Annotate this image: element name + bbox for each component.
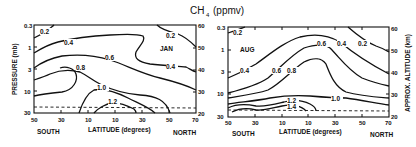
- month-label-aug: AUG: [240, 46, 254, 53]
- y-tick: 1: [221, 47, 225, 53]
- y-axis-pressure-aug: 0.3 1 3 10 30: [217, 25, 231, 120]
- title-main: CH: [190, 5, 204, 16]
- x-axis-label: LATITUDE (degrees): [88, 126, 151, 134]
- contour-label: 0.4: [337, 40, 346, 47]
- y-tick: 40: [198, 67, 205, 73]
- x-tick: 70: [385, 120, 392, 126]
- x-tick: 50: [31, 117, 38, 123]
- x-tick: 50: [166, 117, 173, 123]
- contour-label: 0.2: [40, 28, 49, 35]
- contour-label: 0.4: [240, 67, 249, 74]
- x-tick: 70: [192, 117, 199, 123]
- contour-label: 0.4: [166, 63, 175, 70]
- y-tick: 10: [24, 89, 31, 95]
- x-tick: 10: [305, 120, 312, 126]
- contour-label: 0.6: [105, 54, 114, 61]
- south-label: SOUTH: [37, 128, 60, 135]
- y-tick: 20: [391, 114, 398, 120]
- y-tick: 60: [198, 23, 205, 29]
- north-label: NORTH: [370, 131, 393, 138]
- y-tick: 50: [198, 45, 205, 51]
- panel-aug: 0.3 1 3 10 30 60 50 40 30 20 APPROX. ALT…: [217, 25, 412, 138]
- contour-labels-jan: 0.2 0.4 0.6 0.8 1.0 1.2 0.2 0.4 JAN: [40, 28, 178, 105]
- contour-label: 0.8: [76, 64, 85, 71]
- chart-title: CH 4 (ppmv): [190, 5, 244, 18]
- x-tick: 50: [225, 120, 232, 126]
- y-tick: 30: [24, 110, 31, 116]
- y-tick: 60: [391, 26, 398, 32]
- y-tick: 30: [198, 89, 205, 95]
- contour-label: 1.4: [287, 103, 296, 110]
- contour-label: 0.2: [166, 32, 175, 39]
- contour-labels-aug: 0.2 0.4 0.6 0.8 0.6 0.4 0.2 1.0 1.2 1.4 …: [233, 29, 370, 110]
- title-units: (ppmv): [213, 5, 244, 16]
- y-axis-label-pressure: PRESSURE (mb): [11, 43, 19, 95]
- contour-label: 1.0: [97, 84, 106, 91]
- y-axis-altitude-aug: 60 50 40 30 20 APPROX. ALTITUDE (km): [386, 26, 412, 120]
- contour-label: 0.6: [317, 40, 326, 47]
- contour-label: 0.8: [287, 67, 296, 74]
- x-tick: 10: [112, 117, 119, 123]
- x-tick: 10: [279, 120, 286, 126]
- y-tick: 50: [391, 48, 398, 54]
- x-axis-label: LATITUDE (degrees): [279, 128, 342, 136]
- x-tick: 30: [252, 120, 259, 126]
- x-axis-jan: 50 30 10 10 30 50 70 SOUTH LATITUDE (deg…: [31, 110, 199, 136]
- x-tick: 30: [139, 117, 146, 123]
- x-tick: 10: [85, 117, 92, 123]
- y-tick: 0.3: [24, 23, 33, 29]
- title-subscript: 4: [206, 12, 210, 18]
- y-axis-label-altitude: APPROX. ALTITUDE (km): [404, 34, 412, 112]
- y-tick: 0.3: [217, 25, 226, 31]
- y-tick: 30: [391, 92, 398, 98]
- contour-label: 1.0: [331, 95, 340, 102]
- panel-jan: 0.3 1 3 10 30 PRESSURE (mb) 60 50 40 30 …: [11, 23, 205, 136]
- x-tick: 30: [58, 117, 65, 123]
- y-tick: 30: [217, 114, 224, 120]
- month-label-jan: JAN: [160, 45, 173, 52]
- contour-label: 0.4: [64, 39, 73, 46]
- contour-label: 0.6: [272, 67, 281, 74]
- contour-label: 0.2: [233, 29, 242, 36]
- north-label: NORTH: [173, 129, 196, 136]
- contour-label: 1.2: [108, 98, 117, 105]
- south-label: SOUTH: [232, 130, 255, 137]
- ch4-contour-figure: CH 4 (ppmv) 0.3 1 3 10 30 PRESSURE (mb) …: [0, 0, 416, 147]
- y-axis-altitude-jan: 60 50 40 30 20: [193, 23, 205, 117]
- contour-label: 0.2: [358, 40, 367, 47]
- y-axis-pressure-jan: 0.3 1 3 10 30 PRESSURE (mb): [11, 23, 37, 116]
- y-tick: 1: [28, 45, 32, 51]
- x-tick: 30: [332, 120, 339, 126]
- y-tick: 20: [198, 111, 205, 117]
- y-tick: 3: [221, 69, 225, 75]
- y-tick: 40: [391, 70, 398, 76]
- y-tick: 3: [28, 67, 32, 73]
- x-tick: 50: [359, 120, 366, 126]
- y-tick: 10: [217, 91, 224, 97]
